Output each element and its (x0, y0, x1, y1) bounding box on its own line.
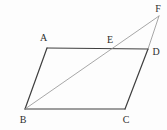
side-CD (125, 49, 148, 109)
point-label-F: F (155, 3, 161, 14)
geometry-diagram-svg: ABCDEF (0, 0, 167, 130)
point-label-D: D (152, 46, 159, 57)
point-label-E: E (107, 34, 113, 45)
geometry-figure: ABCDEF (0, 0, 167, 130)
point-label-A: A (40, 32, 48, 43)
side-AD (47, 48, 148, 49)
line-BF (25, 16, 159, 109)
line-DF (148, 16, 159, 49)
side-AB (25, 48, 47, 109)
point-label-B: B (20, 114, 27, 125)
point-label-C: C (123, 114, 130, 125)
